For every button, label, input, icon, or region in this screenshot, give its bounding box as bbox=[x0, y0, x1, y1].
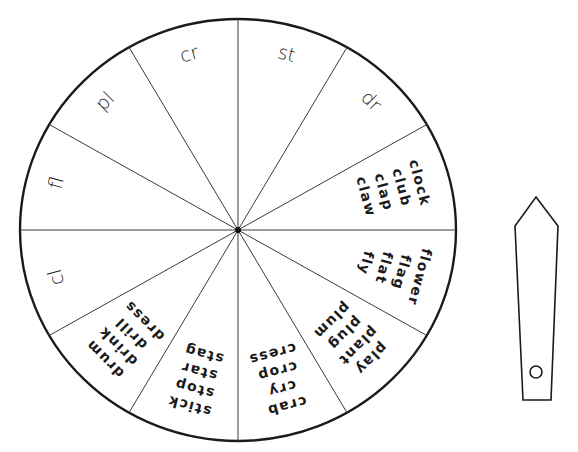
blend-wheel-drawing: stdrclockclubclapclawflowerflagflatflypl… bbox=[0, 0, 578, 452]
wheel-center-pivot bbox=[235, 227, 241, 233]
consonant-blend-wheel-worksheet: stdrclockclubclapclawflowerflagflatflypl… bbox=[0, 0, 578, 452]
pointer-arrow-shape bbox=[515, 197, 558, 400]
spinner-wheel[interactable]: stdrclockclubclapclawflowerflagflatflypl… bbox=[20, 19, 456, 441]
spinner-pointer[interactable] bbox=[515, 197, 558, 400]
